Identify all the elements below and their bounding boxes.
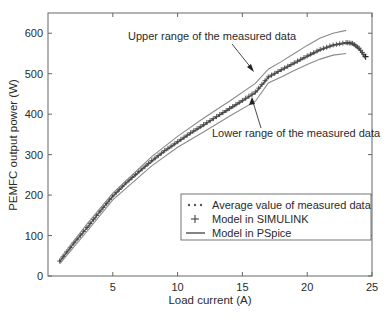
x-tick-label: 15 [236,281,248,293]
legend-label-simulink: Model in SIMULINK [212,213,309,225]
x-axis-label: Load current (A) [168,294,251,306]
x-tick-label: 25 [366,281,378,293]
legend-label-average: Average value of measured data [212,199,372,211]
legend-label-pspice: Model in PSpice [212,227,292,239]
y-tick-label: 400 [25,108,43,120]
y-tick-label: 500 [25,68,43,80]
y-tick-label: 200 [25,189,43,201]
y-tick-label: 300 [25,149,43,161]
chart: 5101520250100200300400500600 Load curren… [0,0,389,322]
lower-range-annotation: Lower range of the measured data [212,127,381,139]
x-tick-label: 10 [171,281,183,293]
x-tick-label: 20 [301,281,313,293]
y-tick-label: 0 [37,270,43,282]
x-tick-label: 5 [110,281,116,293]
y-axis-label: PEMFC output power (W) [7,79,19,211]
upper-range-annotation: Upper range of the measured data [128,30,297,42]
y-tick-label: 100 [25,230,43,242]
y-tick-label: 600 [25,27,43,39]
legend: Average value of measured data Model in … [181,194,372,240]
